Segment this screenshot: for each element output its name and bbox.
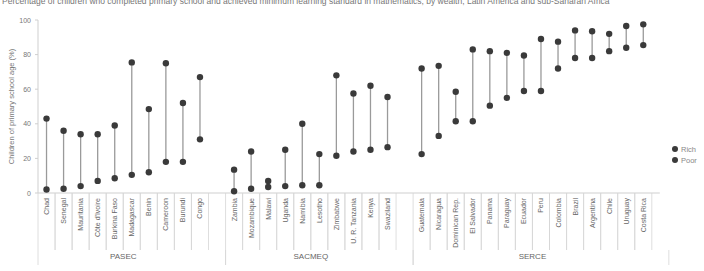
poor-dot bbox=[623, 44, 629, 50]
rich-dot bbox=[538, 36, 544, 42]
rich-dot bbox=[384, 94, 390, 100]
category-label: Paraguay bbox=[503, 198, 511, 228]
category-label: Costa Rica bbox=[640, 198, 647, 232]
legend-label-poor: Poor bbox=[681, 156, 697, 165]
poor-dot bbox=[538, 88, 544, 94]
category-label: Madagascar bbox=[128, 197, 136, 236]
rich-dot bbox=[350, 90, 356, 96]
poor-dot bbox=[418, 151, 424, 157]
category-label: Namibia bbox=[299, 198, 306, 224]
rich-dot bbox=[112, 122, 118, 128]
poor-dot bbox=[572, 55, 578, 61]
y-tick-label: 100 bbox=[19, 17, 31, 24]
poor-dot bbox=[316, 182, 322, 188]
poor-dot bbox=[350, 148, 356, 154]
rich-dot bbox=[453, 89, 459, 95]
rich-dot bbox=[555, 38, 561, 44]
rich-dot bbox=[606, 31, 612, 37]
poor-dot bbox=[94, 178, 100, 184]
poor-dot bbox=[504, 95, 510, 101]
poor-dot bbox=[589, 55, 595, 61]
rich-dot bbox=[248, 148, 254, 154]
poor-dot bbox=[265, 184, 271, 190]
y-tick-label: 0 bbox=[27, 190, 31, 197]
poor-dot bbox=[640, 42, 646, 48]
category-label: Kenya bbox=[367, 198, 375, 218]
category-label: Uruguay bbox=[623, 198, 631, 225]
poor-dot bbox=[248, 185, 254, 191]
rich-dot bbox=[231, 166, 237, 172]
category-label: Ecuador bbox=[520, 197, 527, 224]
rich-dot bbox=[572, 27, 578, 33]
rich-dot bbox=[299, 121, 305, 127]
poor-dot bbox=[453, 118, 459, 124]
rich-dot bbox=[589, 28, 595, 34]
category-label: Cameroon bbox=[162, 198, 169, 231]
rich-dot bbox=[94, 131, 100, 137]
category-label: Nicaragua bbox=[435, 198, 443, 230]
poor-dot bbox=[43, 186, 49, 192]
category-label: Senegal bbox=[60, 198, 68, 224]
rich-dot bbox=[470, 46, 476, 52]
category-label: Burundi bbox=[179, 198, 186, 223]
legend-label-rich: Rich bbox=[681, 145, 696, 154]
category-label: Argentina bbox=[589, 198, 597, 228]
poor-dot bbox=[231, 188, 237, 194]
poor-dot bbox=[282, 183, 288, 189]
category-label: Dominican Rep. bbox=[452, 198, 460, 248]
category-label: Guatemala bbox=[418, 198, 425, 232]
rich-dot bbox=[146, 106, 152, 112]
poor-dot bbox=[77, 183, 83, 189]
category-label: Zambia bbox=[231, 198, 238, 221]
rich-dot bbox=[43, 115, 49, 121]
category-label: Chad bbox=[43, 198, 50, 215]
group-label: SERCE bbox=[519, 252, 547, 261]
category-label: Chile bbox=[606, 198, 613, 214]
poor-dot bbox=[60, 185, 66, 191]
poor-dot bbox=[384, 144, 390, 150]
dumbbell-chart: 020406080100Children of primary school a… bbox=[0, 0, 704, 271]
category-label: Malawi bbox=[265, 198, 272, 220]
poor-dot bbox=[163, 159, 169, 165]
poor-dot bbox=[146, 169, 152, 175]
rich-dot bbox=[487, 48, 493, 54]
category-label: Burkina Faso bbox=[111, 198, 118, 239]
rich-dot bbox=[623, 23, 629, 29]
category-label: Swaziland bbox=[384, 198, 391, 230]
poor-dot bbox=[333, 153, 339, 159]
rich-dot bbox=[60, 128, 66, 134]
group-label: PASEC bbox=[110, 252, 137, 261]
rich-dot bbox=[418, 65, 424, 71]
poor-dot bbox=[606, 48, 612, 54]
rich-dot bbox=[521, 52, 527, 58]
category-label: Congo bbox=[196, 198, 204, 219]
rich-dot bbox=[197, 74, 203, 80]
rich-dot bbox=[180, 100, 186, 106]
legend-marker-poor bbox=[672, 157, 678, 163]
category-label: Mozambique bbox=[248, 198, 256, 238]
poor-dot bbox=[435, 133, 441, 139]
group-label: SACMEQ bbox=[293, 252, 328, 261]
rich-dot bbox=[265, 178, 271, 184]
poor-dot bbox=[470, 118, 476, 124]
category-label: Benin bbox=[145, 198, 152, 216]
rich-dot bbox=[333, 72, 339, 78]
category-label: Zimbabwe bbox=[333, 198, 340, 230]
poor-dot bbox=[299, 182, 305, 188]
rich-dot bbox=[163, 60, 169, 66]
category-label: Colombia bbox=[555, 198, 562, 228]
poor-dot bbox=[555, 65, 561, 71]
category-label: Uganda bbox=[282, 198, 290, 223]
y-tick-label: 40 bbox=[23, 120, 31, 127]
poor-dot bbox=[367, 147, 373, 153]
rich-dot bbox=[129, 59, 135, 65]
rich-dot bbox=[435, 63, 441, 69]
poor-dot bbox=[487, 102, 493, 108]
y-tick-label: 60 bbox=[23, 86, 31, 93]
legend-marker-rich bbox=[672, 146, 678, 152]
y-tick-label: 80 bbox=[23, 51, 31, 58]
category-label: U. R. Tanzania bbox=[350, 198, 357, 244]
category-label: Brazil bbox=[572, 198, 579, 216]
y-axis-title: Children of primary school age (%) bbox=[7, 48, 16, 164]
y-tick-label: 20 bbox=[23, 155, 31, 162]
